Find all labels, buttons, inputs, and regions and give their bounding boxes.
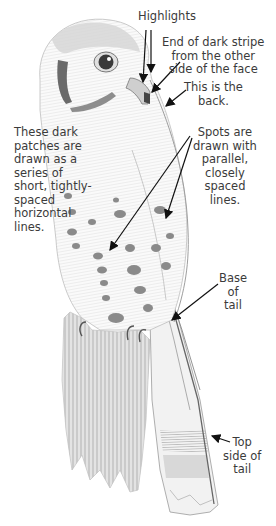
stump-perch — [62, 312, 150, 492]
annotation-top-side-of-tail: Top side of tail — [223, 436, 261, 477]
annotation-base-of-tail: Base of tail — [219, 272, 247, 313]
annotation-dark-stripe: End of dark stripe from the other side o… — [162, 36, 264, 77]
annotation-highlights: Highlights — [138, 10, 196, 24]
annotation-spots: Spots are drawn with parallel, closely s… — [193, 126, 257, 207]
tail — [150, 300, 218, 515]
annotation-back: This is the back. — [184, 81, 243, 108]
arrow-back — [166, 90, 186, 106]
kestrel-drawing-figure: Highlights End of dark stripe from the o… — [0, 0, 276, 526]
annotation-dark-patches: These dark patches are drawn as a series… — [14, 126, 92, 234]
